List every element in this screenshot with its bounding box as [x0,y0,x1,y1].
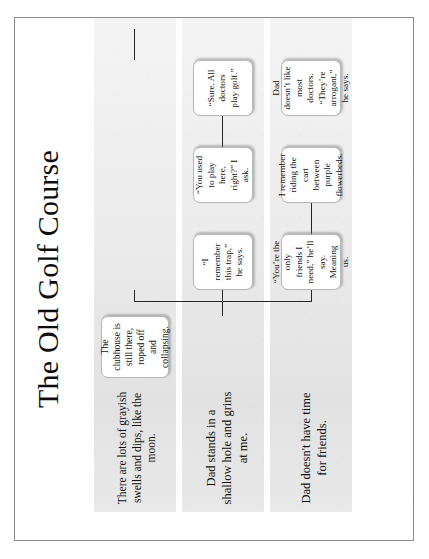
page-frame: The Old Golf Course There are lots of gr… [14,17,414,541]
connector-arm-to-sure [134,290,135,302]
node-played-here-text: “You used to play here, right?” I ask. [194,153,251,197]
connector-bracket-spine-upper [134,301,223,302]
connector-played-to-cart [222,116,223,147]
node-only-friends[interactable]: “You’re the only friends I need,” he’ll … [281,234,341,290]
connector-sure-to-arrogant [134,29,135,60]
node-cart-flowerbeds-text: I remember riding the cart between purpl… [277,153,345,197]
node-sure-doctors-golf-text: “Sure. All doctors play golf.” [206,66,240,110]
node-doctors-arrogant-text: Dad doesn’t like most doctors. “They’re … [271,66,351,110]
row-label-swells: There are lots of grayish swells and dip… [115,390,159,506]
node-sure-doctors-golf[interactable]: “Sure. All doctors play golf.” [193,60,253,116]
page-title: The Old Golf Course [31,18,65,540]
node-played-here[interactable]: “You used to play here, right?” I ask. [193,147,253,203]
slide-canvas: The Old Golf Course There are lots of gr… [15,18,413,540]
node-clubhouse[interactable]: The clubhouse is still there, roped off … [101,316,169,378]
connector-arm-to-played [222,290,223,302]
node-only-friends-text: “You’re the only friends I need,” he’ll … [271,240,351,284]
connector-clubhouse-stem [222,302,223,316]
node-trap[interactable]: “I remember this trap,” he says. [193,234,253,290]
connector-arm-to-trap [311,290,312,302]
row-label-shallow-hole: Dad stands in a shallow hole and grins a… [203,390,251,506]
node-trap-text: “I remember this trap,” he says. [200,240,246,284]
slide-rotation-wrapper: The Old Golf Course There are lots of gr… [15,18,413,540]
connector-trap-to-friends [311,203,312,234]
row-label-no-friends: Dad doesn't have time for friends. [298,390,330,506]
node-doctors-arrogant[interactable]: Dad doesn’t like most doctors. “They’re … [281,60,341,116]
node-clubhouse-text: The clubhouse is still there, roped off … [99,322,171,372]
node-cart-flowerbeds[interactable]: I remember riding the cart between purpl… [281,147,341,203]
connector-bracket-spine-lower [222,301,312,302]
